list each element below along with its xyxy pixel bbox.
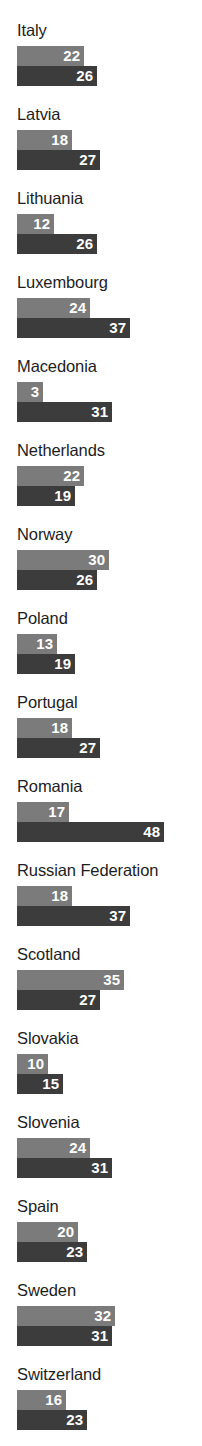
bar-value-label: 15: [17, 1074, 63, 1094]
bar-value-label: 22: [17, 466, 84, 486]
bar-stack: 1827: [17, 718, 100, 758]
bar-value-label: 26: [17, 66, 97, 86]
bar-series-dark: 26: [17, 66, 97, 86]
bar-value-label: 26: [17, 570, 97, 590]
bar-value-label: 31: [17, 1158, 112, 1178]
bar-series-light: 13: [17, 634, 57, 654]
bar-stack: 3527: [17, 970, 124, 1010]
bar-series-light: 32: [17, 1306, 115, 1326]
bar-series-dark: 23: [17, 1410, 87, 1430]
bar-value-label: 19: [17, 486, 75, 506]
bar-value-label: 22: [17, 46, 84, 66]
country-label: Latvia: [17, 104, 60, 124]
bar-stack: 2023: [17, 1222, 87, 1262]
bar-series-light: 24: [17, 1138, 90, 1158]
country-label: Russian Federation: [17, 860, 158, 880]
bar-value-label: 3: [17, 382, 43, 402]
bar-stack: 2437: [17, 298, 130, 338]
bar-value-label: 37: [17, 318, 130, 338]
bar-stack: 1226: [17, 214, 97, 254]
bar-value-label: 27: [17, 738, 100, 758]
country-label: Norway: [17, 524, 72, 544]
country-label: Scotland: [17, 944, 80, 964]
country-label: Slovakia: [17, 1028, 79, 1048]
bar-series-light: 16: [17, 1390, 66, 1410]
country-label: Portugal: [17, 692, 78, 712]
bar-stack: 331: [17, 382, 112, 422]
bar-series-light: 22: [17, 466, 84, 486]
bar-series-light: 18: [17, 130, 72, 150]
bar-series-dark: 37: [17, 318, 130, 338]
bar-series-dark: 31: [17, 402, 112, 422]
country-label: Spain: [17, 1196, 59, 1216]
country-label: Sweden: [17, 1280, 76, 1300]
bar-stack: 3026: [17, 550, 109, 590]
bar-value-label: 18: [17, 130, 72, 150]
bar-series-dark: 19: [17, 654, 75, 674]
bar-value-label: 27: [17, 990, 100, 1010]
bar-series-light: 18: [17, 886, 72, 906]
bar-value-label: 18: [17, 886, 72, 906]
bar-stack: 2431: [17, 1138, 112, 1178]
country-label: Poland: [17, 608, 68, 628]
bar-series-dark: 27: [17, 738, 100, 758]
country-label: Netherlands: [17, 440, 105, 460]
bar-stack: 1837: [17, 886, 130, 926]
bar-series-light: 3: [17, 382, 43, 402]
bar-stack: 1827: [17, 130, 100, 170]
bar-value-label: 18: [17, 718, 72, 738]
bar-value-label: 10: [17, 1054, 48, 1074]
bar-series-light: 22: [17, 46, 84, 66]
bar-value-label: 31: [17, 402, 112, 422]
bar-value-label: 23: [17, 1242, 87, 1262]
bar-series-dark: 27: [17, 150, 100, 170]
bar-series-light: 20: [17, 1222, 78, 1242]
bar-stack: 2226: [17, 46, 97, 86]
horizontal-bar-chart: Italy2226Latvia1827Lithuania1226Luxembou…: [0, 0, 202, 1446]
bar-series-light: 24: [17, 298, 90, 318]
bar-value-label: 24: [17, 1138, 90, 1158]
bar-stack: 1623: [17, 1390, 87, 1430]
bar-series-light: 30: [17, 550, 109, 570]
bar-value-label: 19: [17, 654, 75, 674]
bar-value-label: 48: [17, 822, 164, 842]
bar-value-label: 35: [17, 970, 124, 990]
bar-stack: 1748: [17, 802, 164, 842]
bar-value-label: 16: [17, 1390, 66, 1410]
bar-value-label: 13: [17, 634, 57, 654]
country-label: Slovenia: [17, 1112, 80, 1132]
bar-stack: 2219: [17, 466, 84, 506]
bar-stack: 1319: [17, 634, 75, 674]
bar-value-label: 37: [17, 906, 130, 926]
bar-series-dark: 37: [17, 906, 130, 926]
bar-series-light: 18: [17, 718, 72, 738]
bar-series-dark: 15: [17, 1074, 63, 1094]
country-label: Italy: [17, 20, 47, 40]
bar-series-light: 35: [17, 970, 124, 990]
bar-series-dark: 27: [17, 990, 100, 1010]
bar-value-label: 24: [17, 298, 90, 318]
country-label: Romania: [17, 776, 82, 796]
bar-series-dark: 31: [17, 1326, 112, 1346]
bar-series-dark: 23: [17, 1242, 87, 1262]
bar-stack: 3231: [17, 1306, 115, 1346]
bar-series-dark: 26: [17, 234, 97, 254]
bar-value-label: 30: [17, 550, 109, 570]
bar-value-label: 17: [17, 802, 69, 822]
bar-series-light: 12: [17, 214, 54, 234]
bar-value-label: 26: [17, 234, 97, 254]
bar-value-label: 23: [17, 1410, 87, 1430]
bar-value-label: 31: [17, 1326, 112, 1346]
bar-value-label: 32: [17, 1306, 115, 1326]
bar-series-dark: 48: [17, 822, 164, 842]
country-label: Switzerland: [17, 1364, 101, 1384]
country-label: Macedonia: [17, 356, 97, 376]
bar-value-label: 27: [17, 150, 100, 170]
bar-series-light: 17: [17, 802, 69, 822]
country-label: Luxembourg: [17, 272, 108, 292]
bar-series-dark: 31: [17, 1158, 112, 1178]
bar-stack: 1015: [17, 1054, 63, 1094]
bar-value-label: 12: [17, 214, 54, 234]
bar-value-label: 20: [17, 1222, 78, 1242]
bar-series-dark: 19: [17, 486, 75, 506]
